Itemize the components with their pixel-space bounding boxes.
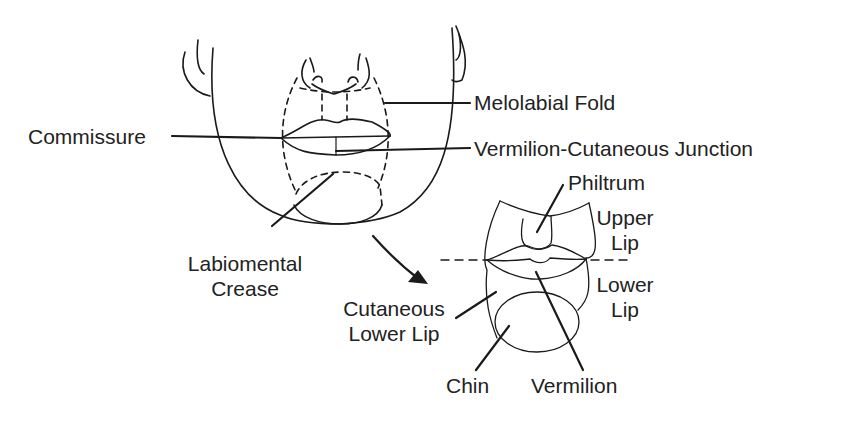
leader-lines-face [172, 103, 470, 226]
label-philtrum: Philtrum [568, 170, 645, 195]
label-lower-lip-line2: Lip [594, 297, 656, 322]
label-cutaneous-lower-lip-line1: Cutaneous [330, 296, 458, 321]
label-lower-lip-line1: Lower [594, 272, 656, 297]
label-vermilion: Vermilion [531, 373, 617, 398]
face-outline [183, 26, 465, 224]
label-cutaneous-lower-lip-line2: Lower Lip [330, 321, 458, 346]
label-upper-lip: Upper Lip [594, 205, 656, 255]
label-chin: Chin [446, 373, 489, 398]
label-vermilion-cutaneous-junction: Vermilion-Cutaneous Junction [474, 136, 753, 161]
dashed-regions [283, 78, 389, 205]
label-labiomental-crease-line2: Crease [172, 276, 318, 301]
label-lower-lip: Lower Lip [594, 272, 656, 322]
label-commissure: Commissure [28, 124, 146, 149]
detail-lips [485, 201, 595, 352]
label-melolabial-fold: Melolabial Fold [474, 90, 615, 115]
label-cutaneous-lower-lip: Cutaneous Lower Lip [330, 296, 458, 346]
nose [302, 54, 369, 94]
lip-anatomy-diagram: Melolabial Fold Commissure Vermilion-Cut… [0, 0, 841, 422]
diagram-drawing [0, 0, 841, 422]
arrow [373, 236, 428, 284]
label-labiomental-crease-line1: Labiomental [172, 251, 318, 276]
label-upper-lip-line1: Upper [594, 205, 656, 230]
label-labiomental-crease: Labiomental Crease [172, 251, 318, 301]
label-upper-lip-line2: Lip [594, 230, 656, 255]
